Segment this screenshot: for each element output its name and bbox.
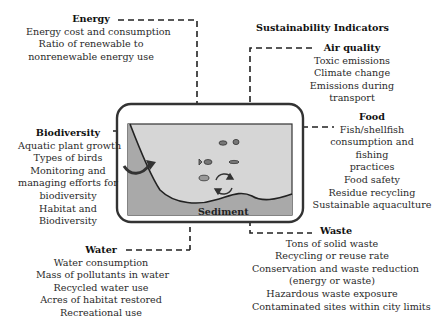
indicator-item: Types of birds xyxy=(18,152,118,165)
indicator-item: transport xyxy=(307,92,397,105)
indicator-item: Energy cost and consumption xyxy=(26,26,156,39)
indicator-item: consumption and xyxy=(312,136,432,149)
indicator-item: Contaminated sites within city limits xyxy=(252,301,412,314)
indicator-biodiversity: Biodiversity Aquatic plant growth Types … xyxy=(18,127,118,228)
indicator-item: Acres of habitat restored xyxy=(36,294,166,307)
indicator-item: Toxic emissions xyxy=(307,55,397,68)
indicator-title: Food xyxy=(312,111,432,124)
indicator-water: Water Water consumption Mass of pollutan… xyxy=(36,244,166,320)
indicator-item: practices xyxy=(312,161,432,174)
indicator-title: Air quality xyxy=(307,42,397,55)
indicator-item: Hazardous waste exposure xyxy=(252,288,412,301)
indicator-title: Energy xyxy=(26,13,156,26)
indicator-item: (energy or waste) xyxy=(252,275,412,288)
indicator-item: managing efforts for xyxy=(18,177,118,190)
indicator-item: Habitat and xyxy=(18,203,118,216)
indicator-item: Conservation and waste reduction xyxy=(252,263,412,276)
indicator-item: Tons of solid waste xyxy=(252,238,412,251)
indicator-item: Ratio of renewable to xyxy=(26,38,156,51)
indicator-item: biodiversity xyxy=(18,190,118,203)
indicator-item: Food safety xyxy=(312,174,432,187)
indicator-title: Water xyxy=(36,244,166,257)
indicator-title: Biodiversity xyxy=(18,127,118,140)
indicator-item: Biodiversity xyxy=(18,215,118,228)
indicator-waste: Waste Tons of solid waste Recycling or r… xyxy=(252,225,412,313)
indicator-title: Waste xyxy=(252,225,412,238)
indicator-item: Emissions during xyxy=(307,80,397,93)
indicator-item: Climate change xyxy=(307,67,397,80)
indicator-item: Monitoring and xyxy=(18,165,118,178)
indicator-item: fishing xyxy=(312,149,432,162)
connector-air-quality xyxy=(250,48,312,112)
indicator-item: Fish/shellfish xyxy=(312,124,432,137)
indicator-item: Residue recycling xyxy=(312,187,432,200)
indicator-item: Recycled water use xyxy=(36,282,166,295)
sediment-label: Sediment xyxy=(198,206,249,217)
indicator-item: Recycling or reuse rate xyxy=(252,250,412,263)
indicator-item: nonrenewable energy use xyxy=(26,51,156,64)
indicator-energy: Energy Energy cost and consumption Ratio… xyxy=(26,13,156,63)
indicator-item: Mass of pollutants in water xyxy=(36,269,166,282)
diagram-heading: Sustainability Indicators xyxy=(256,22,389,33)
indicator-item: Aquatic plant growth xyxy=(18,140,118,153)
indicator-item: Recreational use xyxy=(36,307,166,320)
indicator-item: Sustainable aquaculture xyxy=(312,199,432,212)
indicator-item: Water consumption xyxy=(36,257,166,270)
indicator-food: Food Fish/shellfish consumption and fish… xyxy=(312,111,432,212)
indicator-air-quality: Air quality Toxic emissions Climate chan… xyxy=(307,42,397,105)
